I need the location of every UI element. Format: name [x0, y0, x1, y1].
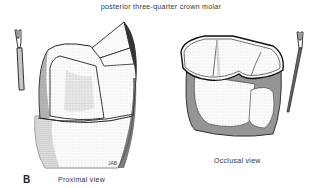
- occlusal-view-caption: Occlusal view: [214, 157, 261, 164]
- figure-title: posterior three-quarter crown molar: [0, 3, 322, 10]
- occlusal-view-illustration: [165, 18, 322, 158]
- panel-label: B: [23, 174, 30, 185]
- proximal-view-caption: Proximal view: [58, 176, 105, 183]
- proximal-view-illustration: [0, 18, 165, 178]
- artist-initials: JAB: [108, 160, 117, 166]
- explorer-instrument-icon: [15, 30, 24, 90]
- explorer-instrument-icon: [287, 32, 303, 112]
